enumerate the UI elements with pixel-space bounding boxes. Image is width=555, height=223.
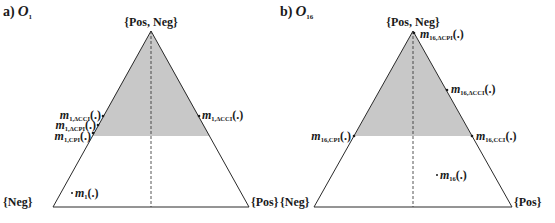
panel-b-label-dcci: m16,ΔCCI(.) <box>451 82 495 96</box>
panel-b-label-cci: m16,CCI(.) <box>476 129 516 143</box>
panel-a-point-dcci-left <box>102 115 105 118</box>
panel-a-point-dcci-right <box>198 115 201 118</box>
panel-b-vertex-top: {Pos, Neg} <box>386 15 440 29</box>
panel-b-point-cci <box>471 135 474 138</box>
panel-a-vertex-left: {Neg} <box>3 195 33 209</box>
panel-b-point-dcpi <box>413 32 416 35</box>
panel-a-vertex-right: {Pos} <box>251 195 279 209</box>
panel-a-label-dcci-right: m1,ΔCCI(.) <box>202 108 243 122</box>
panel-a-point-m1 <box>71 192 73 194</box>
panel-b-vertex-right: {Pos} <box>514 195 542 209</box>
panel-b-point-m16 <box>436 174 438 176</box>
panel-a-title: a)O1 <box>3 3 33 21</box>
panel-b-title: b)O16 <box>280 3 314 21</box>
panel-b: b)O16 {Pos, Neg} {Neg} {Pos} m16,ΔCPI(.)… <box>280 3 542 209</box>
panel-b-point-cpi <box>353 135 356 138</box>
panel-b-vertex-left: {Neg} <box>280 195 310 209</box>
panel-b-label-m16: m16(.) <box>440 168 467 182</box>
panel-a-point-cpi <box>92 132 95 135</box>
panel-b-point-dcci <box>446 89 449 92</box>
panel-a-point-dcpi <box>97 124 100 127</box>
panel-a-vertex-top: {Pos, Neg} <box>124 15 178 29</box>
diagram-canvas: a)O1 {Pos, Neg} {Neg} {Pos} m1,ΔCCI(.) m… <box>0 0 555 223</box>
panel-b-label-cpi: m16,CPI(.) <box>311 129 351 143</box>
panel-a: a)O1 {Pos, Neg} {Neg} {Pos} m1,ΔCCI(.) m… <box>3 3 279 209</box>
panel-a-label-m1: m1(.) <box>75 186 99 200</box>
panel-b-label-dcpi: m16,ΔCPI(.) <box>420 27 464 41</box>
